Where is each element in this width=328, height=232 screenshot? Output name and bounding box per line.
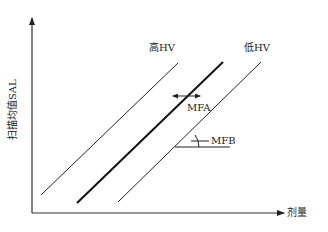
mfb-label: MFB: [211, 136, 236, 146]
low-hv-label: 低HV: [244, 43, 270, 53]
x-axis-label: 剂量: [287, 208, 307, 218]
mfa-label: MFA: [187, 103, 211, 113]
reference-line: [77, 62, 223, 203]
low-hv-line: [118, 62, 261, 202]
high-hv-label: 高HV: [149, 43, 175, 53]
high-hv-line: [41, 63, 178, 195]
y-axis-label: 扫描均值SAL: [4, 79, 19, 140]
diagram-canvas: [0, 0, 328, 232]
